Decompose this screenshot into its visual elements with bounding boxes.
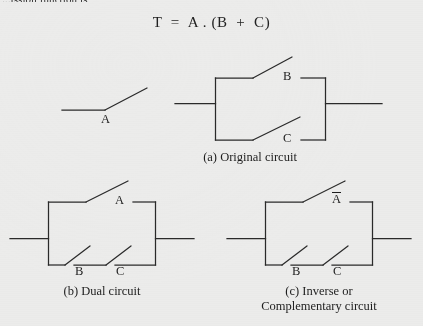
label-switch-c-inverse: C — [333, 264, 341, 279]
label-switch-b-original: B — [283, 69, 291, 84]
label-switch-b-dual: B — [75, 264, 83, 279]
label-switch-a-standalone: A — [101, 112, 110, 127]
label-switch-c-original: C — [283, 131, 291, 146]
label-switch-a-dual: A — [115, 193, 124, 208]
label-switch-a-complement-inverse: A — [332, 192, 341, 207]
inverse-circuit-network — [227, 181, 411, 265]
overbar-a: A — [332, 192, 341, 206]
caption-dual-circuit: (b) Dual circuit — [27, 284, 177, 299]
dual-circuit-network — [10, 181, 194, 265]
switch-a-standalone — [62, 88, 147, 110]
label-switch-b-inverse: B — [292, 264, 300, 279]
figure-page: ...ission function is T = A . (B + C) — [0, 0, 423, 326]
caption-original-circuit: (a) Original circuit — [175, 150, 325, 165]
original-circuit-network — [175, 57, 382, 140]
label-switch-c-dual: C — [116, 264, 124, 279]
caption-inverse-circuit-line1: (c) Inverse or — [244, 284, 394, 299]
caption-inverse-circuit-line2: Complementary circuit — [244, 299, 394, 314]
